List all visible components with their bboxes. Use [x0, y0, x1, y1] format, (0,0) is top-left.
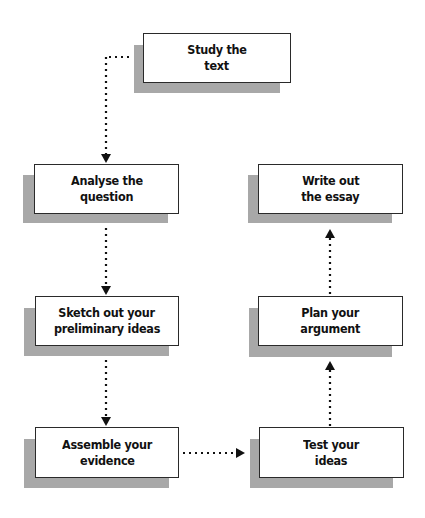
node-analyse: Analyse the question	[34, 164, 179, 214]
node-write-line2: the essay	[301, 189, 359, 205]
node-plan: Plan your argument	[258, 296, 403, 346]
edge-analyse-sketch	[101, 228, 111, 295]
edge-plan-write	[325, 229, 335, 294]
edge-test-plan	[325, 361, 335, 426]
node-test: Test your ideas	[259, 427, 404, 478]
node-sketch: Sketch out your preliminary ideas	[35, 296, 179, 346]
node-plan-line1: Plan your	[302, 305, 360, 321]
edge-sketch-assemble	[101, 360, 111, 426]
node-study-line2: text	[205, 58, 230, 74]
node-test-line2: ideas	[315, 453, 347, 469]
node-sketch-line2: preliminary ideas	[54, 321, 160, 337]
node-sketch-line1: Sketch out your	[59, 305, 155, 321]
node-plan-line2: argument	[301, 321, 361, 337]
node-analyse-line2: question	[80, 189, 133, 205]
node-write: Write out the essay	[258, 164, 403, 214]
edge-assemble-test	[183, 448, 245, 458]
node-assemble-line1: Assemble your	[62, 437, 152, 453]
node-assemble-line2: evidence	[80, 453, 135, 469]
edge-study-analyse	[101, 57, 129, 163]
node-study-line1: Study the	[187, 42, 246, 58]
node-study: Study the text	[143, 33, 291, 83]
node-write-line1: Write out	[302, 173, 359, 189]
node-test-line1: Test your	[304, 437, 360, 453]
node-assemble: Assemble your evidence	[35, 427, 179, 478]
node-analyse-line1: Analyse the	[71, 173, 143, 189]
